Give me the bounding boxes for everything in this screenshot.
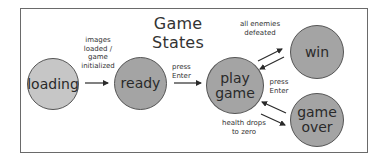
state-loading: loading bbox=[27, 58, 79, 110]
state-win: win bbox=[290, 25, 344, 79]
arrow-gameover-to-play bbox=[262, 102, 286, 113]
state-ready: ready bbox=[114, 57, 167, 110]
label-ready-to-play: press Enter bbox=[172, 63, 198, 80]
state-play-game: play game bbox=[206, 57, 264, 114]
label-play-to-win: all enemies defeated bbox=[236, 20, 284, 37]
label-play-to-gameover: health drops to zero bbox=[218, 119, 270, 136]
label-loading-to-ready: images loaded / game initialized bbox=[78, 36, 118, 70]
state-game-over: game over bbox=[290, 93, 344, 147]
label-win-gameover-to-play: press Enter bbox=[266, 78, 292, 95]
